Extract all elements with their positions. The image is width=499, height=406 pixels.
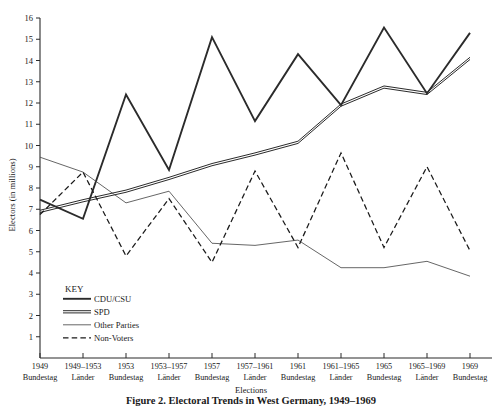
figure-caption: Figure 2. Electoral Trends in West Germa… xyxy=(126,395,376,406)
y-axis: 12345678910111213141516 xyxy=(25,13,41,358)
series-lines xyxy=(40,28,470,277)
x-axis-tick-label-year: 1965–1969 xyxy=(409,362,446,371)
x-axis-tick-label-year: 1961–1965 xyxy=(323,362,360,371)
x-axis-tick-label-body: Bundestag xyxy=(109,373,144,382)
y-axis-tick-label: 15 xyxy=(25,34,34,44)
line-chart-canvas: 12345678910111213141516 1949Bundestag194… xyxy=(0,0,499,406)
legend-label-other-parties: Other Parties xyxy=(94,320,140,330)
legend-title: KEY xyxy=(65,284,84,294)
y-axis-tick-label: 16 xyxy=(25,13,34,23)
y-axis-tick-label: 7 xyxy=(29,204,33,214)
x-axis-tick-label-body: Bundestag xyxy=(23,373,58,382)
legend-label-spd: SPD xyxy=(94,307,110,317)
legend-label-cdu-csu: CDU/CSU xyxy=(94,294,132,304)
chart-legend: KEYCDU/CSUSPDOther PartiesNon-Voters xyxy=(63,284,140,343)
y-axis-tick-label: 1 xyxy=(29,332,33,342)
y-axis-tick-label: 8 xyxy=(29,183,33,193)
series-line-non-voters xyxy=(40,153,470,262)
x-axis-tick-label-body: Länder xyxy=(71,373,94,382)
x-axis-tick-label-body: Bundestag xyxy=(367,373,402,382)
y-axis-tick-label: 13 xyxy=(25,77,34,87)
y-axis-tick-label: 10 xyxy=(25,141,34,151)
y-axis-tick-label: 9 xyxy=(29,162,33,172)
x-axis-tick-label-year: 1949 xyxy=(32,362,48,371)
x-axis-tick-label-body: Bundestag xyxy=(195,373,230,382)
y-axis-tick-label: 3 xyxy=(29,289,33,299)
x-axis-tick-label-body: Bundestag xyxy=(453,373,488,382)
x-axis-tick-label-year: 1953–1957 xyxy=(151,362,188,371)
x-axis-tick-label-year: 1953 xyxy=(118,362,134,371)
x-axis-title: Elections xyxy=(235,385,268,395)
series-line-other-parties xyxy=(40,157,470,276)
series-line-spd-lower xyxy=(40,59,470,212)
y-axis-tick-label: 11 xyxy=(25,119,33,129)
x-axis-tick-label-body: Länder xyxy=(157,373,180,382)
x-axis-tick-label-year: 1957–1961 xyxy=(237,362,274,371)
x-axis-tick-label-body: Länder xyxy=(243,373,266,382)
legend-label-non-voters: Non-Voters xyxy=(94,333,134,343)
series-line-cdu-csu xyxy=(40,28,470,219)
x-axis-tick-label-body: Bundestag xyxy=(281,373,316,382)
x-axis-tick-label-year: 1965 xyxy=(376,362,392,371)
y-axis-tick-label: 4 xyxy=(29,268,34,278)
y-axis-tick-label: 12 xyxy=(25,98,34,108)
x-axis: 1949Bundestag1949–1953Länder1953Bundesta… xyxy=(23,353,492,382)
x-axis-tick-label-year: 1961 xyxy=(290,362,306,371)
x-axis-tick-label-body: Länder xyxy=(329,373,352,382)
y-axis-tick-label: 6 xyxy=(29,226,33,236)
x-axis-tick-label-year: 1949–1953 xyxy=(65,362,102,371)
x-axis-tick-label-body: Länder xyxy=(415,373,438,382)
x-axis-tick-label-year: 1957 xyxy=(204,362,220,371)
y-axis-tick-label: 14 xyxy=(25,56,34,66)
x-axis-tick-label-year: 1969 xyxy=(462,362,478,371)
chart-figure: 12345678910111213141516 1949Bundestag194… xyxy=(0,0,499,406)
y-axis-tick-label: 5 xyxy=(29,247,33,257)
y-axis-tick-label: 2 xyxy=(29,311,33,321)
y-axis-title: Electors (in millions) xyxy=(7,158,17,231)
